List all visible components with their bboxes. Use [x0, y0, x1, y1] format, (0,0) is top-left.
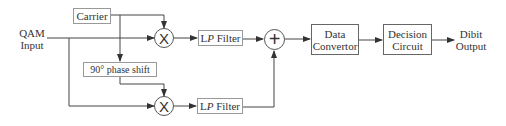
decision-circuit-line2: Circuit	[392, 40, 423, 52]
qam-input-label: QAM Input	[16, 27, 48, 51]
data-convertor-line1: Data	[325, 28, 346, 40]
carrier-label: Carrier	[76, 10, 107, 22]
lp-filter-top-italic: P	[207, 32, 214, 44]
adder: +	[264, 29, 285, 50]
carrier-block: Carrier	[73, 8, 111, 24]
lp-filter-bottom-italic: P	[207, 100, 214, 112]
lp-filter-bottom: LP Filter	[197, 98, 243, 114]
plus-icon: +	[269, 29, 281, 49]
multiplier-top: X	[154, 28, 174, 48]
data-convertor-line2: Convertor	[313, 40, 358, 52]
phase-shift-block: 90° phase shift	[83, 62, 157, 77]
dibit-output-line2: Output	[455, 40, 487, 52]
qam-input-line1: QAM	[16, 27, 48, 39]
lp-filter-top-suffix: Filter	[214, 32, 241, 44]
lp-filter-bottom-suffix: Filter	[213, 100, 240, 112]
decision-circuit-block: Decision Circuit	[383, 24, 432, 55]
qam-input-line2: Input	[16, 39, 48, 51]
multiply-icon: X	[159, 98, 169, 115]
phase-shift-label: 90° phase shift	[90, 64, 150, 76]
dibit-output-label: Dibit Output	[455, 28, 487, 52]
lp-filter-bottom-prefix: L	[200, 100, 207, 112]
dibit-output-line1: Dibit	[455, 28, 487, 40]
data-convertor-block: Data Convertor	[311, 24, 359, 55]
multiplier-bottom: X	[154, 96, 174, 116]
decision-circuit-line1: Decision	[388, 28, 427, 40]
multiply-icon: X	[159, 30, 169, 47]
lp-filter-top: LP Filter	[198, 30, 243, 46]
